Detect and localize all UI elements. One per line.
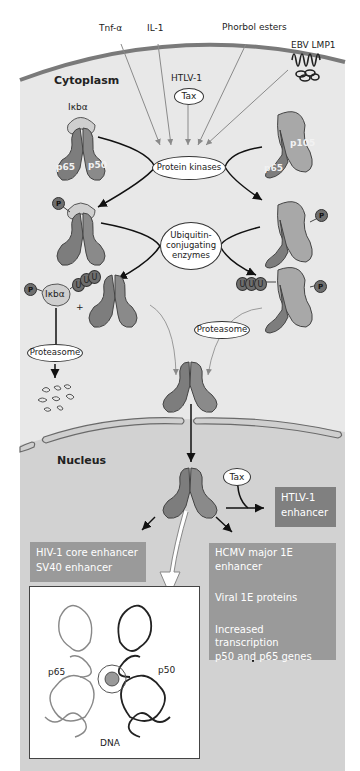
p65-label-right: p65 (264, 163, 283, 173)
hcmv-pathway-box: HCMV major 1E enhancer Viral 1E proteins… (209, 543, 336, 660)
il1-label: IL-1 (147, 23, 163, 33)
ubiquitin-line3: enzymes (172, 251, 210, 261)
p50-label-left: p50 (88, 160, 107, 170)
proteasome-ellipse-left: Proteasome (27, 344, 83, 362)
phospho-marker-right: P (315, 209, 328, 222)
cytoplasm-label: Cytoplasm (54, 74, 119, 87)
htlv1-enhancer-line1: HTLV-1 (281, 490, 330, 505)
htlv1-enhancer-line2: enhancer (281, 505, 330, 520)
proteasome-ellipse-right: Proteasome (194, 321, 250, 339)
sv40-enhancer-label: SV40 enhancer (36, 560, 140, 575)
structure-p50-label: p50 (158, 665, 175, 675)
phospho-marker-fragment: P (24, 283, 37, 296)
hiv1-core-enhancer-label: HIV-1 core enhancer (36, 545, 140, 560)
increased-transcription-line2: p50 and p65 genes (215, 650, 330, 664)
viral-1e-proteins-label: Viral 1E proteins (215, 591, 330, 605)
structure-p65-label: p65 (48, 667, 65, 677)
tnf-alpha-label: Tnf-α (99, 23, 122, 33)
protein-kinases-label: Protein kinases (157, 163, 221, 173)
protein-kinases-ellipse: Protein kinases (152, 156, 226, 180)
ubiquitin-left-3: U (88, 270, 101, 284)
structure-dna-label: DNA (100, 738, 120, 748)
tax-ellipse-nucleus: Tax (223, 468, 251, 486)
ebv-lmp1-label: EBV LMP1 (291, 40, 336, 50)
tax-ellipse-cytoplasm: Tax (174, 88, 204, 105)
htlv1-enhancer-box: HTLV-1 enhancer (275, 487, 336, 527)
ikba-fragment-label: Iκbα (45, 289, 65, 299)
hiv-sv40-enhancer-box: HIV-1 core enhancer SV40 enhancer (30, 542, 146, 582)
p105-label: p105 (290, 138, 315, 148)
hcmv-line2: enhancer (215, 560, 330, 574)
phospho-marker-left: P (52, 197, 65, 210)
ubiquitin-right-3: U (254, 277, 267, 291)
hcmv-line1: HCMV major 1E (215, 546, 330, 560)
htlv1-label: HTLV-1 (171, 73, 202, 83)
ubiquitin-enzymes-ellipse: Ubiquitin- conjugating enzymes (160, 222, 222, 270)
phorbol-esters-label: Phorbol esters (222, 22, 287, 32)
phospho-marker-ub-p105: P (314, 280, 327, 293)
p65-label-left: p65 (56, 162, 75, 172)
plus-sign: + (76, 302, 84, 312)
nucleus-label: Nucleus (57, 454, 106, 467)
increased-transcription-line1: Increased transcription (215, 623, 330, 650)
ikba-label: Iκbα (68, 102, 88, 112)
nfkb-dna-structure-inset: p65 p50 DNA (29, 586, 200, 759)
